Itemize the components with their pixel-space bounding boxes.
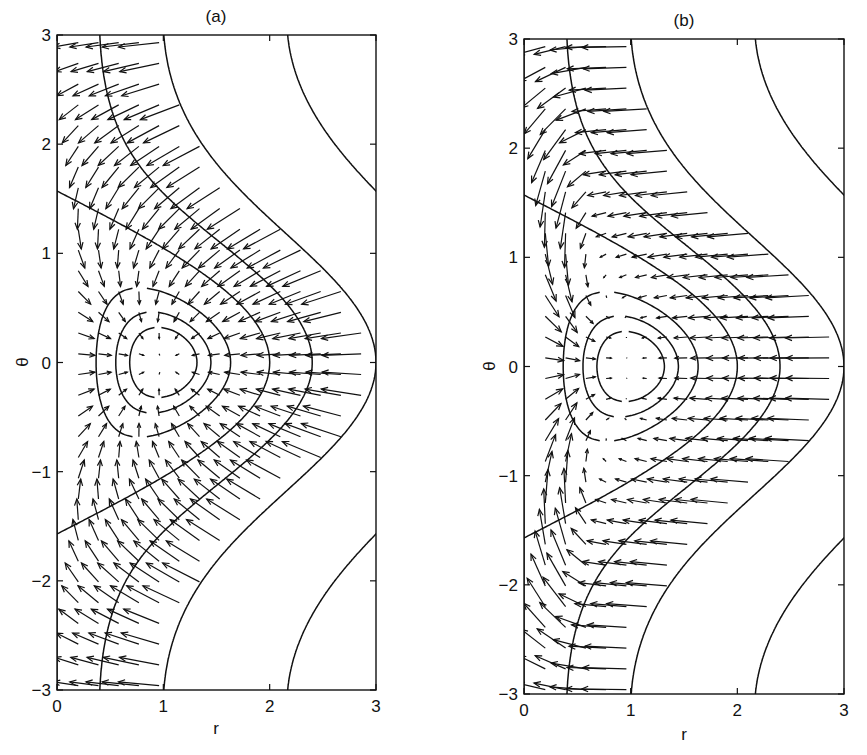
plot-frame <box>57 35 376 690</box>
vector-field-arrows <box>518 45 829 692</box>
panel-a: (a) r θ 01233210−1−2−3 <box>13 7 381 738</box>
y-tick-label: 2 <box>42 135 51 154</box>
vector-field-arrows <box>54 43 362 686</box>
y-tick-label: 1 <box>42 244 51 263</box>
x-tick-label: 0 <box>52 697 61 716</box>
x-tick-label: 2 <box>265 697 274 716</box>
y-tick-label: −2 <box>32 572 51 591</box>
y-tick-label: −1 <box>499 467 518 486</box>
y-axis-label: θ <box>480 361 499 370</box>
x-tick-label: 3 <box>839 701 848 720</box>
y-tick-label: 1 <box>509 248 518 267</box>
y-tick-label: 0 <box>509 358 518 377</box>
axis-ticks: 01233210−1−2−3 <box>499 30 849 720</box>
contour-lines <box>524 39 848 694</box>
y-tick-label: −1 <box>32 463 51 482</box>
figure-canvas: (a) r θ 01233210−1−2−3 (b) r θ 01233210−… <box>0 0 867 755</box>
panel-b: (b) r θ 01233210−1−2−3 <box>480 11 849 744</box>
x-tick-label: 2 <box>733 701 742 720</box>
panel-title: (b) <box>674 11 695 30</box>
y-tick-label: 3 <box>42 26 51 45</box>
x-tick-label: 1 <box>626 701 635 720</box>
y-tick-label: 2 <box>509 139 518 158</box>
contour-lines <box>57 35 380 690</box>
y-tick-label: −3 <box>499 685 518 704</box>
y-tick-label: 3 <box>509 30 518 49</box>
x-tick-label: 1 <box>159 697 168 716</box>
x-axis-label: r <box>681 725 687 744</box>
axis-ticks: 01233210−1−2−3 <box>32 26 381 716</box>
y-axis-label: θ <box>13 357 32 366</box>
panel-title: (a) <box>206 7 227 26</box>
y-tick-label: −3 <box>32 681 51 700</box>
y-tick-label: −2 <box>499 576 518 595</box>
x-tick-label: 0 <box>519 701 528 720</box>
y-tick-label: 0 <box>42 354 51 373</box>
x-tick-label: 3 <box>371 697 380 716</box>
x-axis-label: r <box>213 719 219 738</box>
plot-frame <box>524 39 844 694</box>
